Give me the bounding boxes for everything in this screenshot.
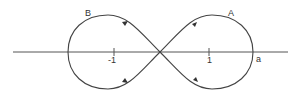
lemniscate-diagram: B A -1 1 a — [0, 0, 301, 98]
label-b: B — [85, 8, 91, 18]
arrow-upper-right-icon — [192, 22, 197, 27]
arrow-upper-left-icon — [122, 21, 128, 26]
label-intercept-a: a — [256, 54, 261, 64]
tick-label-neg-one: -1 — [108, 55, 116, 65]
tick-label-pos-one: 1 — [207, 55, 212, 65]
arrow-lower-left-icon — [122, 78, 128, 83]
arrow-lower-right-icon — [193, 77, 198, 82]
label-a: A — [228, 8, 234, 18]
